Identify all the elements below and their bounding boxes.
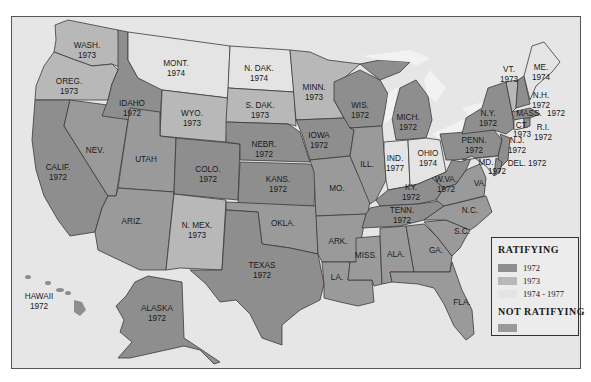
svg-text:TENN.1972: TENN.1972 [390, 206, 415, 225]
label-mass-year: 1972 [547, 109, 566, 118]
svg-text:IDAHO1972: IDAHO1972 [119, 99, 145, 118]
label-colo: COLO. [195, 165, 220, 174]
label-minn: MINN. [302, 83, 325, 92]
label-va: VA. [474, 179, 487, 188]
label-ind: IND. [387, 154, 403, 163]
legend-title-not-ratifying: NOT RATIFYING [498, 306, 572, 317]
svg-text:GA.: GA. [429, 246, 443, 255]
svg-text:ILL.: ILL. [360, 160, 374, 169]
svg-text:N.Y.1972: N.Y.1972 [479, 109, 498, 128]
label-okla: OKLA. [271, 219, 295, 228]
state-penn [440, 130, 502, 160]
state-alaska [116, 276, 220, 364]
label-ndak: N. DAK. [244, 64, 274, 73]
label-ohio: OHIO [418, 149, 439, 158]
label-fla: FLA. [453, 298, 470, 307]
label-nmex: N. MEX. [182, 221, 212, 230]
legend-item-not-ratifying [498, 321, 572, 334]
label-ri: R.I. [537, 123, 550, 132]
state-kans [238, 162, 316, 206]
swatch-1972 [498, 264, 517, 272]
label-ill: ILL. [360, 160, 374, 169]
label-texas: TEXAS [249, 261, 276, 270]
swatch-1973 [498, 277, 517, 285]
svg-text:MASS.: MASS. [516, 109, 541, 118]
state-ariz [95, 188, 174, 270]
label-wis: WIS. [351, 101, 369, 110]
label-tenn: TENN. [390, 206, 415, 215]
label-me: ME. [534, 63, 549, 72]
label-wash: WASH. [74, 41, 101, 50]
label-nev: NEV. [86, 146, 104, 155]
label-mass: MASS. [516, 109, 541, 118]
svg-text:IND.1977: IND.1977 [386, 154, 405, 173]
svg-text:OHIO1974: OHIO1974 [418, 149, 439, 168]
label-ct: CT. [516, 121, 528, 130]
label-ky: KY. [405, 183, 417, 192]
svg-text:MICH.1972: MICH.1972 [396, 113, 419, 132]
svg-text:VA.: VA. [474, 179, 487, 188]
svg-text:NEV.: NEV. [86, 146, 104, 155]
legend-item-1972: 1972 [498, 261, 572, 274]
svg-text:WYO.1973: WYO.1973 [181, 109, 203, 128]
svg-text:ARK.: ARK. [328, 237, 347, 246]
svg-text:ARIZ.: ARIZ. [122, 217, 143, 226]
label-calif: CALIF. [46, 163, 71, 172]
svg-text:PENN.1972: PENN.1972 [461, 136, 486, 155]
label-alaska: ALASKA [141, 304, 173, 313]
label-nebr: NEBR. [251, 140, 276, 149]
label-idaho: IDAHO [119, 99, 145, 108]
label-wyo: WYO. [181, 109, 203, 118]
svg-text:MO.: MO. [329, 184, 344, 193]
svg-text:COLO.1972: COLO.1972 [195, 165, 220, 184]
label-vt: VT. [503, 65, 515, 74]
svg-text:S.C.: S.C. [454, 227, 470, 236]
label-md: MD. [478, 158, 493, 167]
label-hawaii: HAWAII [25, 292, 54, 301]
svg-text:OKLA.: OKLA. [271, 219, 295, 228]
label-ark: ARK. [328, 237, 347, 246]
label-ga: GA. [429, 246, 443, 255]
swatch-not-ratifying [498, 324, 517, 332]
label-ny: N.Y. [481, 109, 496, 118]
svg-text:R.I.1972: R.I.1972 [534, 123, 553, 142]
label-ala: ALA. [387, 250, 405, 259]
svg-text:MINN.1973: MINN.1973 [302, 83, 325, 102]
legend-item-1973: 1973 [498, 274, 572, 287]
map-legend: RATIFYING 1972 1973 1974 - 1977 NOT RATI… [491, 237, 579, 336]
label-sc: S.C. [454, 227, 470, 236]
svg-text:N.C.: N.C. [462, 206, 478, 215]
svg-text:UTAH: UTAH [135, 155, 157, 164]
svg-text:ME.1974: ME.1974 [532, 63, 551, 82]
svg-text:FLA.: FLA. [453, 298, 470, 307]
label-del: DEL. 1972 [508, 159, 547, 168]
legend-title-ratifying: RATIFYING [498, 244, 572, 255]
svg-text:MONT.1974: MONT.1974 [163, 59, 188, 78]
label-nh: N.H. [533, 91, 549, 100]
svg-text:HAWAII1972: HAWAII1972 [25, 292, 54, 311]
svg-text:N.H.1972: N.H.1972 [532, 91, 551, 110]
legend-item-1974-1977: 1974 - 1977 [498, 287, 572, 300]
svg-text:NEBR.1972: NEBR.1972 [251, 140, 276, 159]
label-mich: MICH. [396, 113, 419, 122]
svg-text:IOWA1972: IOWA1972 [308, 131, 330, 150]
label-la: LA. [331, 273, 343, 282]
label-nc: N.C. [462, 206, 478, 215]
label-sdak: S. DAK. [245, 101, 274, 110]
svg-text:WIS.1972: WIS.1972 [351, 101, 370, 120]
svg-text:CALIF.1972: CALIF.1972 [46, 163, 71, 182]
svg-text:MISS.: MISS. [355, 251, 377, 260]
label-miss: MISS. [355, 251, 377, 260]
swatch-1974-1977 [498, 290, 517, 298]
svg-text:LA.: LA. [331, 273, 343, 282]
svg-text:KANS.1972: KANS.1972 [266, 175, 291, 194]
label-mo: MO. [329, 184, 344, 193]
label-wva: W.VA. [435, 175, 457, 184]
svg-text:W.VA.1972: W.VA.1972 [435, 175, 457, 194]
label-utah: UTAH [135, 155, 157, 164]
label-iowa: IOWA [308, 131, 330, 140]
label-mont: MONT. [163, 59, 188, 68]
label-kans: KANS. [266, 175, 291, 184]
svg-text:VT.1973: VT.1973 [500, 65, 519, 84]
label-penn: PENN. [461, 136, 486, 145]
